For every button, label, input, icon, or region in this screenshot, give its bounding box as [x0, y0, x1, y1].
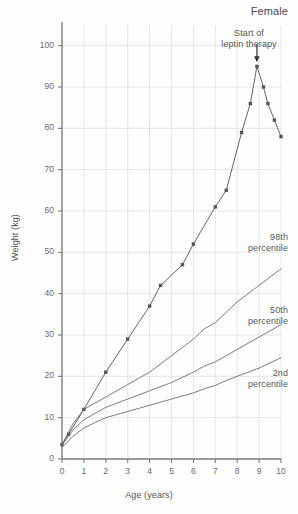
x-axis-label: Age (years) [0, 490, 298, 501]
percentile-50-line1: 50th [270, 305, 288, 315]
x-tick-label: 4 [140, 466, 160, 476]
x-tick-label: 7 [205, 466, 225, 476]
chart-plot-area [0, 0, 298, 514]
y-tick-label: 20 [0, 370, 54, 380]
y-tick-label: 40 [0, 288, 54, 298]
y-tick-label: 30 [0, 329, 54, 339]
x-tick-label: 2 [96, 466, 116, 476]
percentile-98-line2: percentile [248, 243, 288, 253]
percentile-50-line2: percentile [248, 316, 288, 326]
x-tick-label: 9 [249, 466, 269, 476]
y-tick-label: 10 [0, 412, 54, 422]
weight-growth-chart: Female Start ofleptin therapy 98thpercen… [0, 0, 298, 514]
x-tick-label: 1 [74, 466, 94, 476]
percentile-98-label: 98thpercentile [218, 232, 288, 254]
leptin-therapy-annotation: Start ofleptin therapy [208, 28, 290, 50]
chart-sex-title: Female [251, 6, 288, 17]
y-tick-label: 50 [0, 246, 54, 256]
percentile-2-label: 2ndpercentile [214, 368, 288, 390]
y-tick-label: 0 [0, 453, 54, 463]
percentile-98-line1: 98th [270, 232, 288, 242]
percentile-2-line2: percentile [248, 379, 288, 389]
x-tick-label: 3 [118, 466, 138, 476]
leptin-annotation-line2: leptin therapy [221, 39, 276, 49]
y-tick-label: 100 [0, 40, 54, 50]
y-tick-label: 70 [0, 164, 54, 174]
y-tick-label: 80 [0, 122, 54, 132]
y-tick-label: 60 [0, 205, 54, 215]
x-tick-label: 0 [52, 466, 72, 476]
x-tick-label: 6 [183, 466, 203, 476]
percentile-2-line1: 2nd [273, 368, 288, 378]
x-tick-label: 10 [271, 466, 291, 476]
x-tick-label: 5 [162, 466, 182, 476]
x-tick-label: 8 [227, 466, 247, 476]
y-tick-label: 90 [0, 81, 54, 91]
leptin-annotation-line1: Start of [234, 28, 264, 38]
tick-marks [58, 46, 281, 463]
percentile-50-label: 50thpercentile [214, 305, 288, 327]
